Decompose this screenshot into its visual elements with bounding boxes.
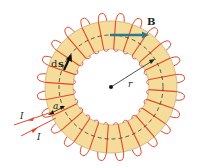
- label-d: d: [51, 58, 58, 69]
- toroid-diagram: B d s r a I I: [0, 0, 198, 168]
- label-I-out: I: [36, 132, 41, 142]
- label-s: s: [58, 58, 64, 69]
- label-a: a: [53, 101, 58, 111]
- label-I-in: I: [19, 111, 24, 121]
- label-B: B: [147, 16, 155, 27]
- label-r: r: [128, 79, 133, 89]
